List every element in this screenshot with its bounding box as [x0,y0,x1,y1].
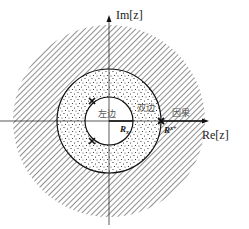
z-plane-diagram: Im[z] Re[z] 左边 双边 因果 Rx- Rx+ [0,0,249,229]
two-sided-label: 双边 [137,103,155,113]
imag-axis-label: Im[z] [116,8,143,22]
real-axis-label: Re[z] [202,128,229,142]
left-sided-label: 左边 [98,108,116,119]
imag-axis-arrow-icon [107,15,112,22]
causal-label: 因果 [172,108,190,118]
